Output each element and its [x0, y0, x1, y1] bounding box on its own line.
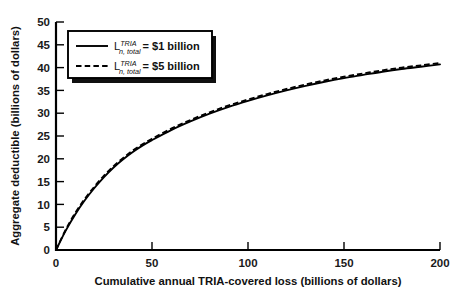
y-tick-label: 25 [37, 130, 50, 142]
legend-value: = $5 billion [143, 60, 200, 72]
y-tick-label: 5 [44, 221, 51, 233]
x-tick-label: 150 [334, 257, 353, 269]
y-tick-label: 10 [37, 199, 50, 211]
legend-subscript: n, total [119, 67, 141, 76]
x-tick-label: 0 [53, 257, 59, 269]
x-axis-title: Cumulative annual TRIA-covered loss (bil… [95, 275, 402, 287]
y-tick-label: 30 [37, 107, 50, 119]
legend-value: = $1 billion [143, 40, 200, 52]
legend-subscript: n, total [119, 47, 141, 56]
y-tick-label: 50 [37, 16, 50, 28]
chart-figure: 0 5 10 15 20 25 30 35 40 45 50 0 50 100 … [0, 0, 465, 291]
chart-svg: 0 5 10 15 20 25 30 35 40 45 50 0 50 100 … [0, 0, 465, 291]
x-tick-label: 50 [146, 257, 159, 269]
y-axis-tick-labels: 0 5 10 15 20 25 30 35 40 45 50 [37, 16, 50, 256]
y-axis-title: Aggregate deductible (billions of dollar… [9, 26, 21, 246]
x-axis-tick-labels: 0 50 100 150 200 [53, 257, 450, 269]
legend: LTRIAn, total= $1 billion LTRIAn, total=… [68, 31, 216, 83]
y-tick-label: 15 [37, 176, 50, 188]
y-tick-label: 35 [37, 85, 50, 97]
y-tick-label: 0 [44, 244, 50, 256]
y-tick-label: 40 [37, 62, 50, 74]
x-tick-label: 100 [238, 257, 257, 269]
y-tick-label: 20 [37, 153, 50, 165]
y-tick-label: 45 [37, 39, 50, 51]
x-tick-label: 200 [430, 257, 449, 269]
